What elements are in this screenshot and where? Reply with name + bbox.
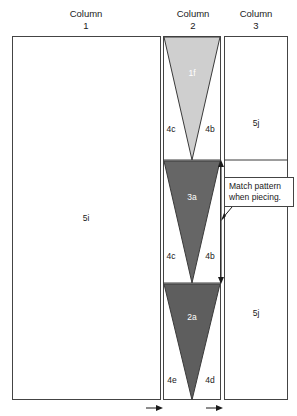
column-1-header: Column 1 (46, 8, 126, 32)
column-3-header-name: Column (240, 8, 273, 19)
column-2-panel (163, 36, 221, 400)
column-3-piece-label-bottom: 5j (241, 308, 271, 318)
column-1-header-name: Column (70, 8, 103, 19)
column-1-piece-label: 5i (66, 213, 106, 223)
column-3-header: Column 3 (216, 8, 296, 32)
block-1-left-label: 4c (159, 124, 183, 134)
quilt-pattern-diagram: Column 1 Column 2 Column 3 5i (0, 0, 297, 416)
block-1-right-label: 4b (198, 124, 222, 134)
block-3-left-label: 4e (160, 375, 184, 385)
triangle-3a-label: 3a (177, 192, 207, 202)
block-2-left-label: 4c (159, 251, 183, 261)
bottom-arrow-2-head (216, 405, 223, 411)
column-3-piece-label-top: 5j (241, 118, 271, 128)
column-3-header-number: 3 (216, 20, 296, 32)
bottom-arrow-1-head (156, 405, 163, 411)
callout-line-1: Match pattern (229, 181, 281, 191)
triangle-1f-label: 1f (177, 68, 207, 78)
triangle-2a-label: 2a (177, 312, 207, 322)
block-2-right-label: 4b (198, 251, 222, 261)
block-3-right-label: 4d (198, 375, 222, 385)
column-2-header-name: Column (177, 8, 210, 19)
callout-line-2: when piecing. (229, 192, 281, 202)
match-pattern-callout: Match pattern when piecing. (224, 177, 294, 207)
column-1-header-number: 1 (46, 20, 126, 32)
column-3-panel (224, 36, 288, 400)
